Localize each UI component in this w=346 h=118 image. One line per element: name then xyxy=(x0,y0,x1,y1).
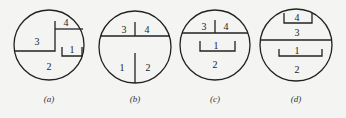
panel-a-region-4: 4 xyxy=(64,17,69,28)
panel-b-region-3: 3 xyxy=(122,24,127,35)
panel-c-region-4: 4 xyxy=(224,21,229,32)
panel-c-region-2: 2 xyxy=(213,59,218,70)
panel-a-region-3: 3 xyxy=(35,36,40,47)
panel-c-region-3: 3 xyxy=(202,21,207,32)
panel-b-caption: (b) xyxy=(130,94,141,104)
panel-d-caption: (d) xyxy=(291,94,302,104)
panel-b: 1 2 3 4 (b) xyxy=(99,11,171,104)
panel-a-region-1: 1 xyxy=(70,44,75,55)
panel-d-bracket-1 xyxy=(279,49,322,56)
figure-canvas: 1 2 3 4 (a) 1 2 3 4 (b) 1 2 3 4 (c) 1 2 … xyxy=(0,0,346,118)
panel-c-region-1: 1 xyxy=(214,40,219,51)
panel-d-region-2: 2 xyxy=(295,64,300,75)
panel-a-region-2: 2 xyxy=(47,61,52,72)
panel-d: 1 2 3 4 (d) xyxy=(260,9,332,104)
panel-d-region-4: 4 xyxy=(295,12,300,23)
panel-d-region-3: 3 xyxy=(295,27,300,38)
panel-d-region-1: 1 xyxy=(295,45,300,56)
panel-a: 1 2 3 4 (a) xyxy=(14,10,84,104)
panel-b-region-2: 2 xyxy=(146,62,151,73)
panel-c: 1 2 3 4 (c) xyxy=(180,10,250,104)
panel-b-region-1: 1 xyxy=(120,62,125,73)
panel-c-caption: (c) xyxy=(210,94,220,104)
panel-b-region-4: 4 xyxy=(145,24,150,35)
panel-a-caption: (a) xyxy=(44,94,55,104)
